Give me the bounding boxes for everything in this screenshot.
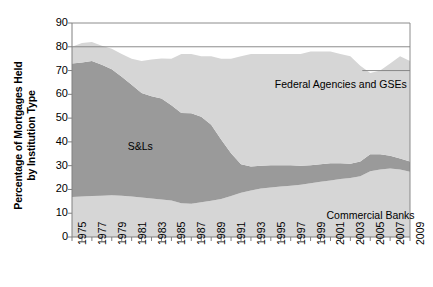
x-axis-tick-label: 1983 — [156, 222, 168, 245]
x-axis-tick-label: 1999 — [315, 222, 327, 245]
x-axis-tick-label: 1979 — [116, 222, 128, 245]
x-axis-tick-label: 2001 — [334, 222, 346, 245]
x-axis-tick-label: 1993 — [255, 222, 267, 245]
x-axis-tick-label: 1977 — [96, 222, 108, 245]
x-axis-tick-label: 1975 — [76, 222, 88, 245]
x-axis-tick-label: 1985 — [175, 222, 187, 245]
x-axis-tick-label: 1997 — [295, 222, 307, 245]
x-axis-tick-label: 1987 — [195, 222, 207, 245]
x-axis-tick-label: 2007 — [394, 222, 406, 245]
x-axis-tick-label: 1995 — [275, 222, 287, 245]
series-label-sls: S&Ls — [128, 140, 153, 152]
x-axis-tick-label: 1989 — [215, 222, 227, 245]
series-label-commercial-banks: Commercial Banks — [326, 209, 414, 221]
x-axis-tick-label: 1991 — [235, 222, 247, 245]
x-axis-tick-label: 1981 — [136, 222, 148, 245]
chart-container: Percentage of Mortgages Held by Institut… — [0, 0, 433, 287]
x-axis-tick-label: 2009 — [414, 222, 426, 245]
x-axis-tick-label: 2005 — [374, 222, 386, 245]
x-axis-tick-labels: 1975197719791981198319851987198919911993… — [0, 0, 433, 287]
x-axis-tick-label: 2003 — [354, 222, 366, 245]
series-label-federal-agencies: Federal Agencies and GSEs — [275, 78, 407, 90]
